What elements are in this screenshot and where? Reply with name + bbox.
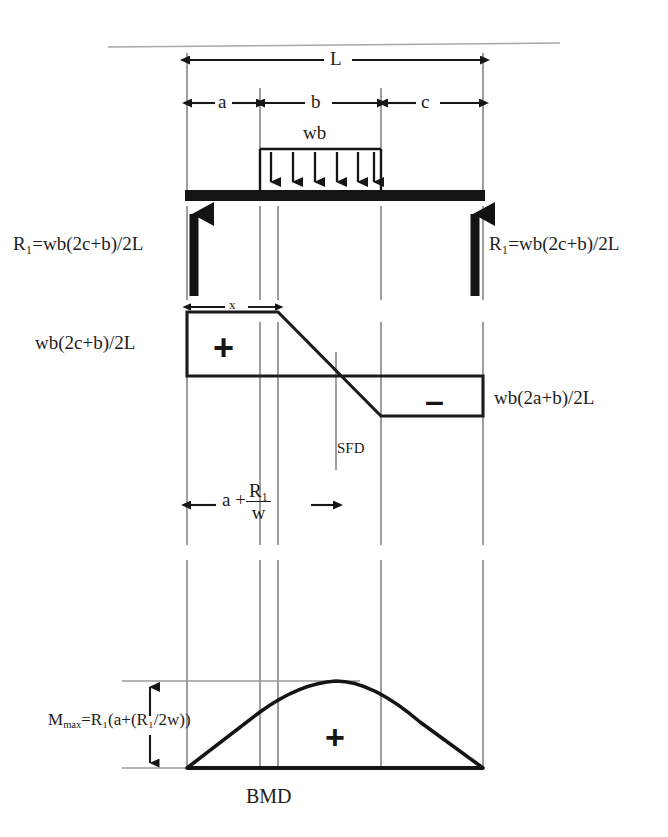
segment-label-b: b	[311, 92, 321, 112]
bmd-positive-sign: +	[325, 718, 345, 757]
bmd-caption: BMD	[246, 786, 292, 807]
segment-label-c: c	[421, 92, 429, 112]
reaction-right-label: R₁=wb(2c+b)/2L	[489, 234, 619, 254]
sfd-right-ordinate-label: wb(2a+b)/2L	[494, 388, 594, 408]
moment-expression: =R₁(a+(R₁/2w))	[81, 710, 190, 729]
sfd-left-ordinate-label: wb(2c+b)/2L	[35, 333, 135, 353]
beam-member	[185, 190, 485, 201]
distributed-load	[260, 149, 381, 193]
dimension-prefix: a +	[222, 489, 246, 510]
moment-symbol: M	[48, 710, 63, 729]
top-rule	[108, 43, 560, 47]
sfd-positive-sign: +	[213, 327, 234, 369]
sfd-caption: SFD	[337, 441, 365, 457]
bmd-max-moment-label: Mmax=R₁(a+(R₁/2w))	[48, 711, 191, 730]
sfd-negative-sign: –	[425, 381, 444, 420]
fraction-numerator: R₁	[246, 481, 271, 502]
fraction-denominator: w	[246, 502, 271, 522]
load-magnitude-label: wb	[303, 123, 326, 143]
sfd-x-dimension-label: x	[229, 298, 236, 312]
beam-diagram-figure: L a b c wb R₁=wb(2c+b)/2L R₁=wb(2c+b)/2L…	[0, 0, 668, 837]
segment-label-a: a	[218, 92, 226, 112]
bmd-peak-dimension-label: a +R₁w	[222, 481, 271, 522]
reaction-left-label: R₁=wb(2c+b)/2L	[13, 234, 143, 254]
dimension-fraction: R₁w	[246, 481, 271, 522]
moment-subscript: max	[63, 719, 81, 730]
span-label-L: L	[330, 49, 342, 69]
